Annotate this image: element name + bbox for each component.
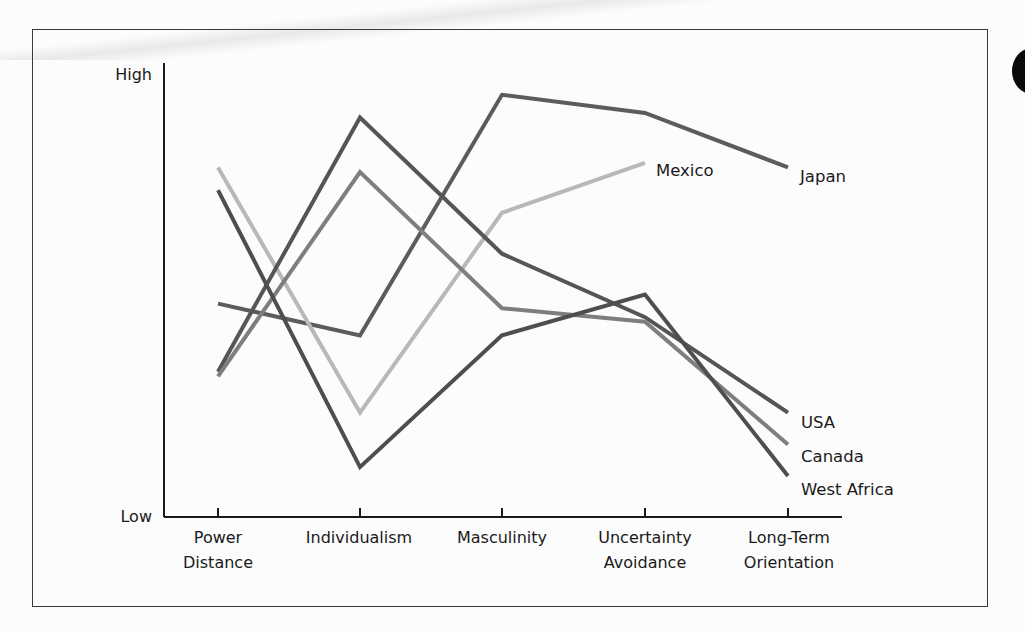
line-chart: High Low Power Distance Individualism Ma… xyxy=(0,0,1025,631)
x-label-uncertainty-avoidance-line1: Uncertainty xyxy=(598,528,691,547)
series-labels: Mexico Japan USA Canada West Africa xyxy=(656,161,894,499)
series-label-usa: USA xyxy=(801,413,836,432)
x-label-long-term-orientation-line1: Long-Term xyxy=(748,528,830,547)
series-label-japan: Japan xyxy=(799,167,846,186)
series-label-west-africa: West Africa xyxy=(801,480,894,499)
x-label-individualism: Individualism xyxy=(306,528,412,547)
series-label-mexico: Mexico xyxy=(656,161,714,180)
x-label-long-term-orientation-line2: Orientation xyxy=(744,553,834,572)
x-axis-labels: Power Distance Individualism Masculinity… xyxy=(183,528,834,572)
series-label-canada: Canada xyxy=(801,447,864,466)
y-axis-high-label: High xyxy=(115,65,152,84)
x-label-power-distance-line1: Power xyxy=(194,528,243,547)
series-lines xyxy=(218,95,788,476)
x-label-masculinity: Masculinity xyxy=(457,528,547,547)
x-label-uncertainty-avoidance-line2: Avoidance xyxy=(604,553,686,572)
x-axis-ticks xyxy=(218,508,788,517)
page: High Low Power Distance Individualism Ma… xyxy=(0,0,1025,631)
x-label-power-distance-line2: Distance xyxy=(183,553,253,572)
y-axis-low-label: Low xyxy=(120,507,152,526)
series-line-west-africa xyxy=(218,190,788,476)
